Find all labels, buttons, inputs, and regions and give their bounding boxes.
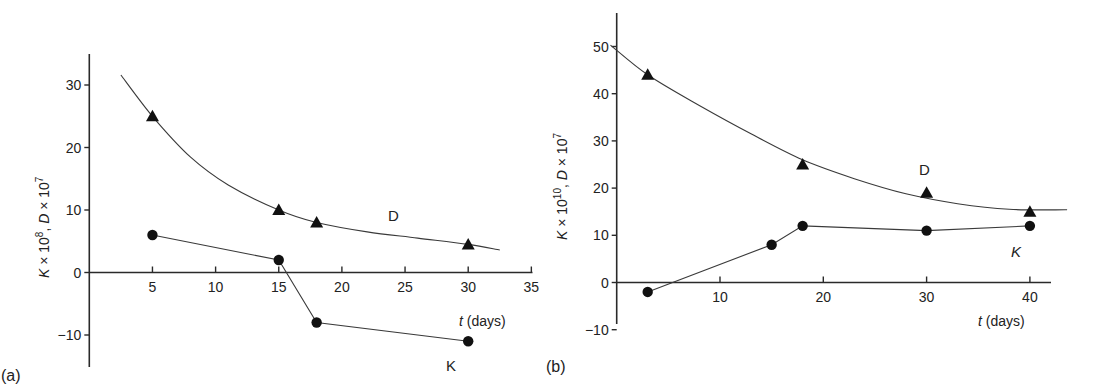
- figure: 5101520253035 −100102030 D K t (days) K …: [0, 0, 1095, 389]
- x-ticks-b: 10203040: [712, 277, 1038, 305]
- x-axis-title-b: t (days): [978, 313, 1025, 329]
- d-fit-curve-a: [121, 75, 500, 250]
- k-markers-a: [147, 230, 473, 347]
- panel-label-b: (b): [546, 358, 566, 375]
- figure-svg: 5101520253035 −100102030 D K t (days) K …: [0, 0, 1095, 389]
- series-label-k-b: K: [1011, 243, 1022, 260]
- d-markers-b: [641, 68, 1036, 216]
- y-tick-label: 10: [66, 202, 82, 218]
- circle-marker: [311, 317, 321, 327]
- y-title-d-a: D: [36, 214, 52, 224]
- x-ticks-a: 5101520253035: [149, 267, 540, 295]
- series-label-d-a: D: [388, 207, 399, 224]
- chart-panel-a: 5101520253035 −100102030 D K t (days) K …: [1, 54, 539, 384]
- k-markers-b: [642, 221, 1035, 297]
- y-tick-label: 0: [601, 275, 609, 291]
- panel-label-a: (a): [1, 367, 21, 384]
- circle-marker: [642, 287, 652, 297]
- y-title-kexp-b: 10: [552, 188, 563, 200]
- y-axis-title-a: K × 108, D × 107: [34, 176, 52, 278]
- y-title-dexp-a: 7: [34, 176, 45, 182]
- x-axis-title-a: t (days): [459, 313, 506, 329]
- x-tick-label: 20: [334, 279, 350, 295]
- y-tick-label: 30: [593, 133, 609, 149]
- circle-marker: [463, 336, 473, 346]
- series-label-d-b: D: [919, 161, 930, 178]
- x-axis-title-unit-b: (days): [982, 313, 1025, 329]
- circle-marker: [797, 221, 807, 231]
- y-ticks-a: −100102030: [58, 77, 90, 343]
- triangle-marker: [641, 68, 654, 80]
- circle-marker: [1025, 221, 1035, 231]
- x-tick-label: 35: [524, 279, 540, 295]
- x-tick-label: 15: [271, 279, 287, 295]
- y-tick-label: 20: [66, 140, 82, 156]
- x-tick-label: 10: [208, 279, 224, 295]
- y-axis-title-b: K × 1010, D × 107: [552, 133, 570, 240]
- y-tick-label: 0: [74, 265, 82, 281]
- d-markers-a: [146, 110, 475, 250]
- circle-marker: [147, 230, 157, 240]
- y-tick-label: 10: [593, 227, 609, 243]
- y-tick-label: −10: [58, 327, 82, 343]
- triangle-marker: [796, 158, 809, 170]
- x-tick-label: 30: [919, 289, 935, 305]
- triangle-marker: [272, 204, 285, 216]
- y-tick-label: 50: [593, 39, 609, 55]
- triangle-marker: [920, 186, 933, 198]
- series-label-k-a: K: [446, 357, 456, 374]
- y-tick-label: 20: [593, 180, 609, 196]
- x-tick-label: 5: [149, 279, 157, 295]
- circle-marker: [274, 255, 284, 265]
- y-title-d-b: D: [554, 170, 570, 180]
- triangle-marker: [1023, 205, 1036, 217]
- chart-panel-b: 10203040 −1001020304050 D K t (days) K ×…: [546, 13, 1067, 375]
- y-tick-label: 40: [593, 86, 609, 102]
- circle-marker: [766, 240, 776, 250]
- x-tick-label: 30: [460, 279, 476, 295]
- x-axis-title-unit-a: (days): [463, 313, 506, 329]
- circle-marker: [921, 225, 931, 235]
- y-ticks-b: −1001020304050: [585, 39, 617, 338]
- y-title-dexp-b: 7: [552, 133, 563, 139]
- x-tick-label: 20: [816, 289, 832, 305]
- y-tick-label: 30: [66, 77, 82, 93]
- d-fit-curve-b: [611, 45, 1068, 210]
- k-line-a: [152, 235, 468, 341]
- x-tick-label: 10: [712, 289, 728, 305]
- y-tick-label: −10: [585, 322, 609, 338]
- x-tick-label: 40: [1022, 289, 1038, 305]
- x-tick-label: 25: [397, 279, 413, 295]
